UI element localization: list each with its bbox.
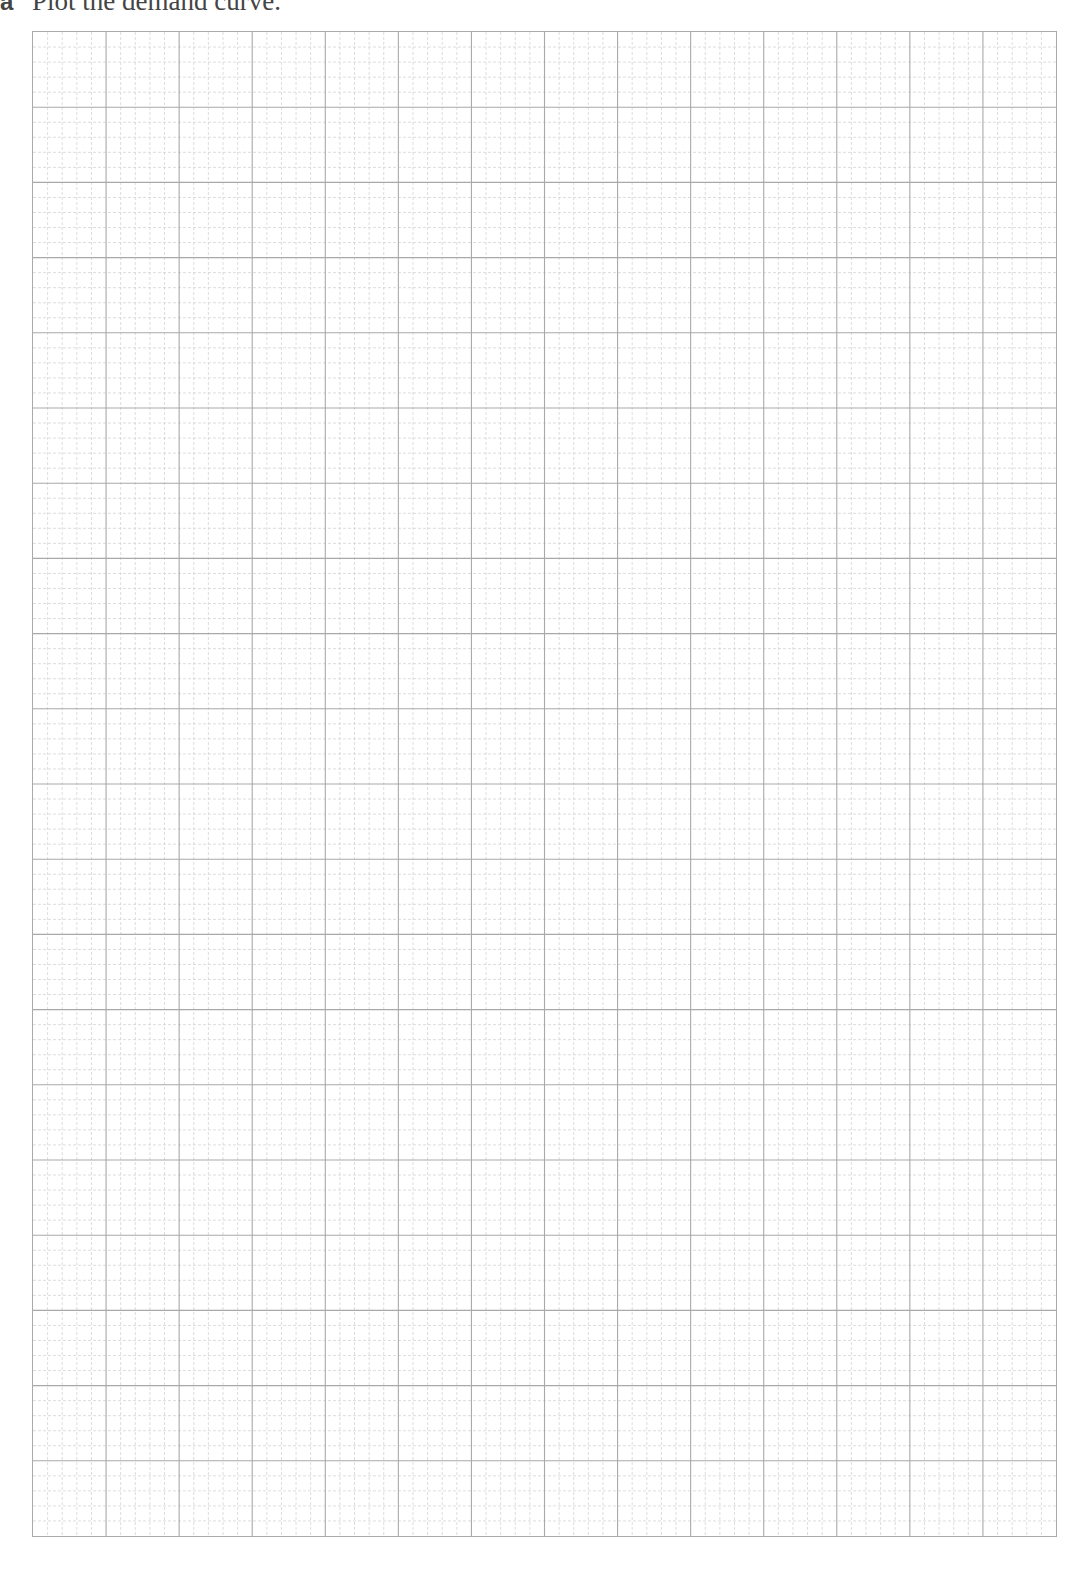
grid-lines xyxy=(33,32,1056,1536)
question-label: a xyxy=(0,0,32,16)
graph-paper-grid[interactable] xyxy=(32,31,1057,1537)
question-text: Plot the demand curve. xyxy=(32,0,281,17)
question-prompt: a Plot the demand curve. xyxy=(0,0,281,16)
